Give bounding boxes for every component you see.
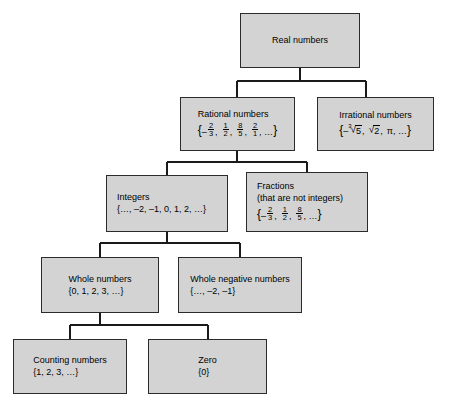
negative-sign: – [202,127,207,138]
node-whole-negative-numbers-set: {…, –2, –1} [190,286,290,297]
fraction-two-thirds: 2 3 [267,206,273,223]
node-real-numbers[interactable]: Real numbers [240,13,360,68]
fraction-two-over-one: 2 1 [252,122,258,139]
node-counting-numbers-set: {1, 2, 3, …} [33,367,107,378]
separator: , [274,211,277,222]
node-zero-label: Zero [198,355,217,366]
numerator: 8 [296,206,302,214]
node-real-numbers-label: Real numbers [247,35,353,46]
node-zero-inner: Zero {0} [188,355,227,378]
node-whole-negative-numbers-inner: Whole negative numbers {…, –2, –1} [180,274,300,297]
node-integers-set: {…, –2, –1, 0, 1, 2, …} [117,204,217,215]
separator: , [244,127,247,138]
separator: , [289,211,292,222]
denominator: 2 [223,129,229,138]
node-whole-negative-numbers[interactable]: Whole negative numbers {…, –2, –1} [178,257,302,313]
node-whole-numbers-label: Whole numbers [68,274,131,285]
separator: , [380,126,383,137]
fraction-one-half: 1 2 [223,122,229,139]
fraction-eight-fifths: 8 5 [296,206,302,223]
set-close-brace: } [318,207,322,222]
node-counting-numbers-inner: Counting numbers {1, 2, 3, …} [23,355,117,378]
denominator: 5 [237,129,243,138]
node-counting-numbers-label: Counting numbers [33,355,107,366]
numerator: 2 [208,122,214,130]
separator: , [230,127,233,138]
node-zero-set: {0} [198,367,217,378]
node-counting-numbers[interactable]: Counting numbers {1, 2, 3, …} [13,339,127,394]
number-classification-diagram: Real numbers Rational numbers { – 2 3 , … [0,0,449,410]
set-close-brace: } [407,123,411,138]
separator: , [362,126,365,137]
node-fractions-sublabel: (that are not integers) [257,193,357,204]
node-rational-numbers[interactable]: Rational numbers { – 2 3 , 1 2 , 8 5 [180,97,295,151]
numerator: 2 [252,122,258,130]
negative-sign: – [261,211,266,222]
node-fractions-label: Fractions [257,181,357,192]
node-integers-label: Integers [117,192,217,203]
node-zero[interactable]: Zero {0} [148,339,267,394]
numerator: 1 [223,122,229,130]
denominator: 3 [208,129,214,138]
node-rational-numbers-inner: Rational numbers { – 2 3 , 1 2 , 8 5 [188,109,287,139]
fraction-two-thirds: 2 3 [208,122,214,139]
node-fractions[interactable]: Fractions (that are not integers) { – 2 … [246,172,368,232]
fraction-one-half: 1 2 [282,206,288,223]
ellipsis: , … [259,127,273,138]
denominator: 1 [252,129,258,138]
cube-root-of-five: 3 √ 5 [348,124,362,136]
denominator: 5 [296,213,302,222]
node-fractions-inner: Fractions (that are not integers) { – 2 … [247,181,367,223]
node-integers[interactable]: Integers {…, –2, –1, 0, 1, 2, …} [106,175,228,232]
denominator: 3 [267,213,273,222]
square-root-of-two: √ 2 [369,124,381,136]
node-irrational-numbers-label: Irrational numbers [339,110,412,121]
ellipsis: , … [393,126,407,137]
separator: , [215,127,218,138]
ellipsis: , … [304,211,318,222]
node-integers-inner: Integers {…, –2, –1, 0, 1, 2, …} [107,192,227,215]
node-rational-numbers-label: Rational numbers [198,109,277,120]
node-whole-numbers-set: {0, 1, 2, 3, …} [68,286,131,297]
node-whole-numbers[interactable]: Whole numbers {0, 1, 2, 3, …} [41,257,159,313]
numerator: 2 [267,206,273,214]
set-close-brace: } [273,123,277,138]
node-fractions-set: { – 2 3 , 1 2 , 8 5 , … } [257,206,357,223]
denominator: 2 [282,213,288,222]
node-whole-negative-numbers-label: Whole negative numbers [190,274,290,285]
node-irrational-numbers-set: { – 3 √ 5 , √ 2 , π , … } [339,123,412,138]
node-whole-numbers-inner: Whole numbers {0, 1, 2, 3, …} [58,274,141,297]
numerator: 1 [282,206,288,214]
fraction-eight-fifths: 8 5 [237,122,243,139]
node-irrational-numbers[interactable]: Irrational numbers { – 3 √ 5 , √ 2 , π , [317,97,434,151]
radicand: 5 [355,125,362,137]
radicand: 2 [373,125,380,137]
node-irrational-numbers-inner: Irrational numbers { – 3 √ 5 , √ 2 , π , [329,110,422,138]
numerator: 8 [237,122,243,130]
node-real-numbers-inner: Real numbers [241,35,359,46]
node-rational-numbers-set: { – 2 3 , 1 2 , 8 5 , [198,122,277,139]
